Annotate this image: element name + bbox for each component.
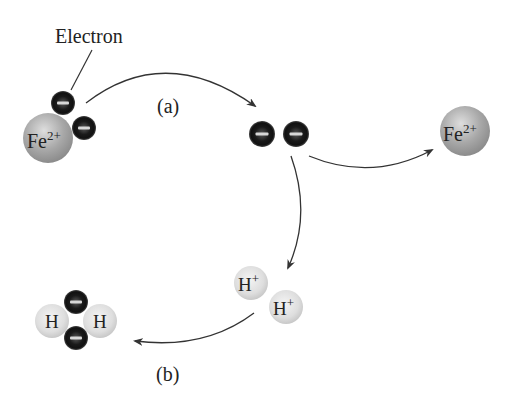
arrow-to-fe-right	[309, 150, 432, 168]
electron-icon	[51, 91, 75, 115]
h-atom-left-label: H	[45, 311, 59, 332]
arrow-to-protons	[288, 156, 301, 268]
electron-pair	[249, 121, 309, 147]
hydrogen-molecule: H H	[35, 290, 117, 350]
step-b-label: (b)	[156, 363, 179, 386]
electron-icon	[64, 290, 88, 314]
step-a-label: (a)	[157, 95, 179, 118]
h-atom-right-label: H	[93, 311, 107, 332]
fe-ion-left-group: Fe2+	[23, 91, 96, 163]
electron-icon	[64, 326, 88, 350]
electron-icon	[72, 116, 96, 140]
electron-icon	[283, 121, 309, 147]
electron-leader-line	[71, 50, 92, 90]
electron-label: Electron	[55, 25, 123, 47]
arrow-b	[135, 313, 254, 343]
proton-1: H+	[234, 266, 268, 300]
proton-2: H+	[269, 290, 303, 324]
electron-icon	[249, 121, 275, 147]
electron-transfer-diagram: Electron Fe2+ (a) Fe2+	[0, 0, 516, 410]
fe-ion-right-group: Fe2+	[440, 106, 490, 156]
